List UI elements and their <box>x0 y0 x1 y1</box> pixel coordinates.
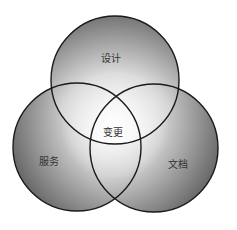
venn-fills <box>13 16 218 212</box>
set-label-document: 文档 <box>168 156 188 171</box>
venn-diagram <box>0 0 237 230</box>
set-label-service: 服务 <box>39 153 59 168</box>
set-label-design: 设计 <box>101 50 121 65</box>
intersection-label-change: 变更 <box>103 124 123 139</box>
